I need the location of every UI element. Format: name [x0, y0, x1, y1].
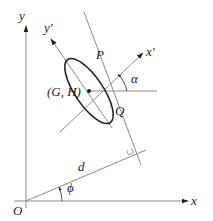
phi-label: ϕ: [67, 180, 74, 195]
center-point: [87, 89, 91, 93]
distance-line: [26, 150, 146, 201]
y-prime-label: y′: [42, 20, 53, 35]
tangent-line-pq: [84, 12, 141, 165]
x-axis-label: x: [190, 193, 197, 208]
y-axis-label: y: [17, 8, 25, 23]
point-p-label: P: [95, 47, 104, 62]
center-label: (G, H): [47, 84, 81, 99]
origin-label: O: [13, 203, 23, 218]
alpha-label: α: [131, 71, 139, 86]
distance-label: d: [78, 159, 85, 174]
point-q-label: Q: [115, 103, 125, 118]
phi-arc: [59, 187, 62, 201]
x-prime-label: x′: [145, 44, 155, 59]
right-angle-marker: [127, 148, 134, 155]
alpha-arc: [118, 74, 127, 91]
ellipse-geometry-diagram: x y O d ϕ x′ y′ α (G, H) P Q: [0, 0, 213, 221]
